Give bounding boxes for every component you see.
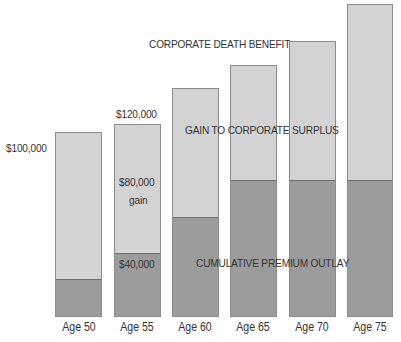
- death-benefit-label: CORPORATE DEATH BENEFIT: [149, 38, 290, 50]
- gain-age-55-word: gain: [129, 194, 147, 206]
- outlay-age-55-value: $40,000: [119, 258, 154, 270]
- bar-age-55: [114, 124, 161, 317]
- outlay-label: CUMULATIVE PREMIUM OUTLAY: [196, 257, 349, 269]
- bar-age-70-outlay: [290, 180, 335, 316]
- x-tick-age-60: Age 60: [169, 320, 220, 334]
- bar-age-70: [289, 41, 336, 317]
- bar-age-60: [172, 88, 219, 317]
- bar-age-65: [230, 65, 277, 317]
- x-tick-age-75: Age 75: [344, 320, 395, 334]
- bar-age-50-outlay: [56, 279, 101, 316]
- x-tick-age-50: Age 50: [53, 320, 104, 334]
- total-age-50-label: $100,000: [6, 142, 47, 154]
- gain-age-55-value: $80,000: [119, 176, 154, 188]
- bar-age-75: [347, 4, 393, 317]
- x-tick-age-55: Age 55: [111, 320, 162, 334]
- gain-label: GAIN TO CORPORATE SURPLUS: [185, 124, 339, 136]
- bar-age-65-outlay: [231, 180, 276, 316]
- total-age-55-label: $120,000: [116, 108, 157, 120]
- bar-age-75-outlay: [348, 180, 392, 316]
- x-tick-age-65: Age 65: [227, 320, 278, 334]
- x-tick-age-70: Age 70: [286, 320, 337, 334]
- bar-age-50: [55, 132, 102, 317]
